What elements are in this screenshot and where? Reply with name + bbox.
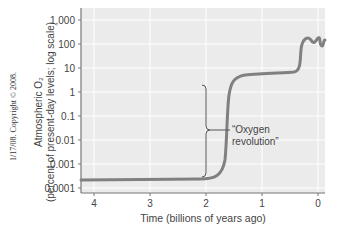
y-tick-label: 1 [69,87,75,98]
x-tick-label: 0 [315,198,321,209]
annotation-line1: “Oxygen [232,124,270,135]
x-tick-label: 4 [91,198,97,209]
y-tick-label: 1,000 [50,15,75,26]
plot-area [81,8,325,193]
x-axis-label: Time (billions of years ago) [140,212,266,224]
y-tick-label: 0.001 [50,159,75,170]
x-tick-label: 1 [259,198,265,209]
y-tick-label: 0.0001 [44,183,75,194]
annotation-line2: revolution” [232,136,279,147]
chart: 1,0001001010.10.010.0010.000143210Time (… [0,0,337,238]
y-tick-label: 10 [64,63,76,74]
y-tick-label: 0.01 [56,135,76,146]
x-tick-label: 2 [203,198,209,209]
x-tick-label: 3 [147,198,153,209]
y-tick-label: 0.1 [61,111,75,122]
y-tick-label: 100 [58,39,75,50]
